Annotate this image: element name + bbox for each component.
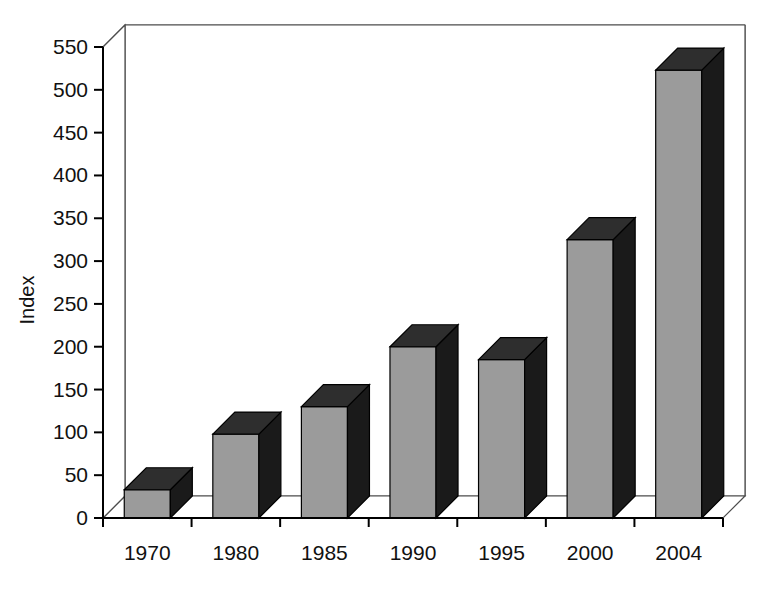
bar-front-face xyxy=(656,70,702,518)
x-tick-label-2004: 2004 xyxy=(655,541,702,564)
bar-1990 xyxy=(390,325,458,518)
bar-front-face xyxy=(124,490,170,518)
bar-front-face xyxy=(567,240,613,518)
y-tick-label: 200 xyxy=(53,335,88,358)
bar-front-face xyxy=(390,347,436,518)
x-tick-label-1985: 1985 xyxy=(301,541,348,564)
y-tick-label: 400 xyxy=(53,163,88,186)
bar-side-face xyxy=(436,325,458,518)
bar-side-face xyxy=(525,338,547,518)
bar-1985 xyxy=(301,385,369,518)
bar-side-face xyxy=(347,385,369,518)
y-tick-label: 150 xyxy=(53,378,88,401)
plot-left-wall xyxy=(103,25,125,518)
x-tick-label-1990: 1990 xyxy=(390,541,437,564)
y-axis-title: Index xyxy=(16,276,38,325)
y-tick-label: 250 xyxy=(53,292,88,315)
x-tick-label-1995: 1995 xyxy=(478,541,525,564)
chart-container: 050100150200250300350400450500550 197019… xyxy=(0,0,766,589)
bar-1980 xyxy=(213,412,281,518)
y-tick-label: 50 xyxy=(65,463,88,486)
bar-front-face xyxy=(479,360,525,518)
y-tick-label: 500 xyxy=(53,78,88,101)
y-tick-label: 550 xyxy=(53,35,88,58)
x-tick-label-2000: 2000 xyxy=(567,541,614,564)
y-tick-label: 450 xyxy=(53,121,88,144)
bar-front-face xyxy=(213,434,259,518)
y-axis-title-group: Index xyxy=(16,276,38,325)
y-tick-label: 300 xyxy=(53,249,88,272)
bar-chart: 050100150200250300350400450500550 197019… xyxy=(0,0,766,589)
bar-side-face xyxy=(613,218,635,518)
bar-2000 xyxy=(567,218,635,518)
bar-2004 xyxy=(656,48,724,518)
y-tick-label: 350 xyxy=(53,206,88,229)
bar-side-face xyxy=(702,48,724,518)
x-tick-label-1980: 1980 xyxy=(212,541,259,564)
y-tick-label: 0 xyxy=(76,506,88,529)
bar-1995 xyxy=(479,338,547,518)
y-tick-label: 100 xyxy=(53,420,88,443)
bar-front-face xyxy=(301,407,347,518)
x-tick-label-1970: 1970 xyxy=(124,541,171,564)
